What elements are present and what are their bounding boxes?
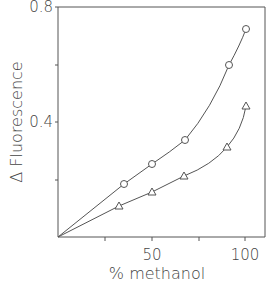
triangle-series-curve [58,106,246,237]
circle-marker [121,181,128,188]
triangle-marker [242,102,250,109]
x-tick-label-100: 100 [231,246,260,264]
y-tick-label-0.4: 0.4 [29,113,53,131]
circle-marker [226,62,233,69]
triangle-marker [148,188,156,195]
x-axis-title: % methanol [109,264,205,283]
x-ticks [105,237,245,241]
circle-marker [182,137,189,144]
x-tick-label-50: 50 [142,246,161,264]
circle-marker [243,26,250,33]
chart: 0.8 0.4 50 100 % methanol Δ Fluorescence [0,0,267,283]
triangle-markers [115,102,250,209]
y-tick-label-0.8: 0.8 [29,0,53,16]
triangle-marker [115,202,123,209]
y-axis-title: Δ Fluorescence [7,61,26,182]
circle-series-curve [58,29,246,237]
axes-frame [58,7,265,237]
triangle-marker [180,172,188,179]
circle-marker [149,161,156,168]
circle-markers [121,26,250,188]
